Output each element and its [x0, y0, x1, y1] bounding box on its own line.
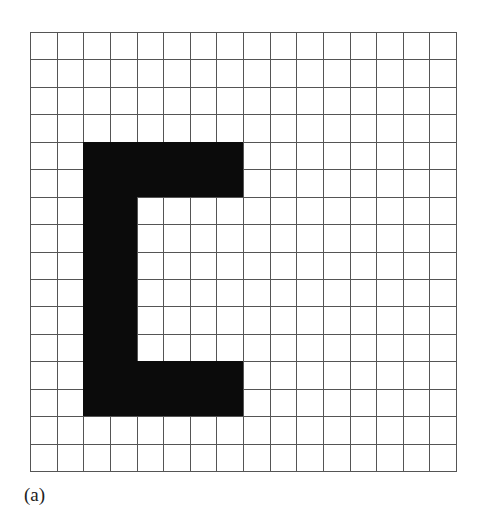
empty-pixel — [323, 224, 350, 251]
empty-pixel — [110, 32, 137, 59]
empty-pixel — [30, 389, 57, 416]
empty-pixel — [403, 197, 430, 224]
empty-pixel — [350, 279, 377, 306]
empty-pixel — [296, 142, 323, 169]
empty-pixel — [429, 279, 456, 306]
empty-pixel — [270, 389, 297, 416]
empty-pixel — [190, 334, 217, 361]
filled-pixel — [83, 361, 110, 388]
empty-pixel — [376, 32, 403, 59]
filled-pixel — [190, 169, 217, 196]
filled-pixel — [110, 334, 137, 361]
empty-pixel — [163, 59, 190, 86]
empty-pixel — [243, 32, 270, 59]
empty-pixel — [163, 334, 190, 361]
empty-pixel — [216, 334, 243, 361]
filled-pixel — [137, 142, 164, 169]
empty-pixel — [243, 169, 270, 196]
filled-pixel — [163, 142, 190, 169]
empty-pixel — [270, 32, 297, 59]
empty-pixel — [57, 334, 84, 361]
empty-pixel — [30, 416, 57, 443]
filled-pixel — [137, 361, 164, 388]
empty-pixel — [296, 87, 323, 114]
empty-pixel — [57, 142, 84, 169]
filled-pixel — [190, 389, 217, 416]
empty-pixel — [350, 306, 377, 333]
empty-pixel — [30, 306, 57, 333]
empty-pixel — [350, 389, 377, 416]
empty-pixel — [270, 361, 297, 388]
filled-pixel — [110, 142, 137, 169]
empty-pixel — [243, 59, 270, 86]
empty-pixel — [350, 87, 377, 114]
empty-pixel — [376, 361, 403, 388]
empty-pixel — [190, 197, 217, 224]
filled-pixel — [163, 389, 190, 416]
empty-pixel — [163, 279, 190, 306]
empty-pixel — [137, 279, 164, 306]
figure-label: (a) — [24, 484, 45, 506]
empty-pixel — [30, 142, 57, 169]
empty-pixel — [376, 59, 403, 86]
empty-pixel — [403, 252, 430, 279]
empty-pixel — [270, 416, 297, 443]
filled-pixel — [83, 334, 110, 361]
empty-pixel — [270, 114, 297, 141]
empty-pixel — [163, 444, 190, 471]
empty-pixel — [270, 169, 297, 196]
empty-pixel — [376, 87, 403, 114]
filled-pixel — [137, 389, 164, 416]
empty-pixel — [137, 224, 164, 251]
empty-pixel — [296, 444, 323, 471]
empty-pixel — [323, 361, 350, 388]
empty-pixel — [190, 87, 217, 114]
empty-pixel — [323, 114, 350, 141]
filled-pixel — [216, 389, 243, 416]
empty-pixel — [403, 87, 430, 114]
empty-pixel — [30, 361, 57, 388]
empty-pixel — [216, 32, 243, 59]
empty-pixel — [57, 252, 84, 279]
empty-pixel — [110, 87, 137, 114]
empty-pixel — [323, 389, 350, 416]
empty-pixel — [243, 416, 270, 443]
empty-pixel — [296, 416, 323, 443]
empty-pixel — [323, 197, 350, 224]
empty-pixel — [216, 59, 243, 86]
empty-pixel — [30, 334, 57, 361]
empty-pixel — [350, 416, 377, 443]
empty-pixel — [243, 114, 270, 141]
empty-pixel — [137, 114, 164, 141]
empty-pixel — [296, 334, 323, 361]
filled-pixel — [110, 197, 137, 224]
empty-pixel — [216, 252, 243, 279]
empty-pixel — [30, 444, 57, 471]
empty-pixel — [83, 444, 110, 471]
empty-pixel — [83, 59, 110, 86]
empty-pixel — [350, 361, 377, 388]
empty-pixel — [296, 361, 323, 388]
empty-pixel — [270, 197, 297, 224]
filled-pixel — [110, 389, 137, 416]
empty-pixel — [243, 334, 270, 361]
pixel-grid — [30, 32, 457, 472]
empty-pixel — [30, 197, 57, 224]
filled-pixel — [83, 252, 110, 279]
empty-pixel — [296, 306, 323, 333]
empty-pixel — [163, 252, 190, 279]
empty-pixel — [350, 252, 377, 279]
empty-pixel — [216, 306, 243, 333]
empty-pixel — [137, 334, 164, 361]
empty-pixel — [296, 32, 323, 59]
empty-pixel — [163, 114, 190, 141]
empty-pixel — [376, 334, 403, 361]
empty-pixel — [30, 224, 57, 251]
empty-pixel — [57, 361, 84, 388]
empty-pixel — [403, 416, 430, 443]
empty-pixel — [403, 59, 430, 86]
filled-pixel — [216, 142, 243, 169]
empty-pixel — [403, 361, 430, 388]
empty-pixel — [110, 416, 137, 443]
empty-pixel — [190, 32, 217, 59]
